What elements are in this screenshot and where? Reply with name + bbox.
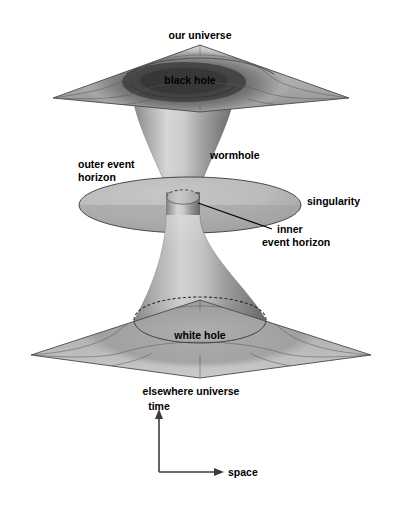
spacetime-diagram-svg: our universe black hole outer event hori… (0, 0, 395, 519)
label-time-axis: time (148, 400, 170, 412)
label-outer-event-horizon-line2: horizon (78, 171, 116, 183)
label-singularity: singularity (307, 195, 360, 207)
label-inner-event-horizon-line2: event horizon (262, 236, 330, 248)
label-our-universe: our universe (168, 29, 231, 41)
label-wormhole: wormhole (209, 149, 260, 161)
label-elsewhere-universe: elsewhere universe (143, 385, 240, 397)
label-outer-event-horizon-line1: outer event (78, 158, 135, 170)
label-inner-event-horizon-line1: inner (277, 223, 303, 235)
wormhole-diagram-root: our universe black hole outer event hori… (0, 0, 395, 519)
label-black-hole: black hole (164, 74, 216, 86)
label-white-hole: white hole (173, 329, 225, 341)
label-space-axis: space (228, 466, 258, 478)
inner-event-horizon-face (167, 190, 199, 204)
